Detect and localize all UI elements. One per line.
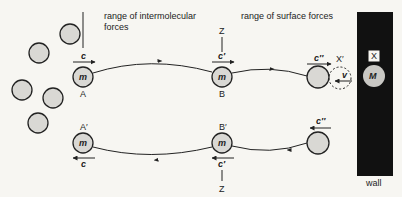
svg-text:M: M xyxy=(369,71,377,81)
velocity-c-return-label: c xyxy=(81,159,86,169)
label-X-prime: X′ xyxy=(336,54,344,64)
molecule-B-prime: m xyxy=(212,133,232,153)
upper-trajectory xyxy=(93,64,212,73)
intermolecular-range-label-2: forces xyxy=(104,22,129,32)
label-A: A xyxy=(80,89,86,99)
label-Z-top: Z xyxy=(219,26,225,36)
svg-text:m: m xyxy=(218,72,226,82)
velocity-v-label: v xyxy=(342,70,348,80)
lower-trajectory xyxy=(93,147,212,155)
molecule-A: m xyxy=(73,67,93,87)
intermolecular-range-label: range of intermolecular xyxy=(104,11,196,21)
wall-molecule-M: M xyxy=(363,65,385,87)
velocity-c-prime-return-label: c′ xyxy=(218,159,226,169)
surface-range-label: range of surface forces xyxy=(241,11,334,21)
label-Z-bottom: Z xyxy=(219,184,225,194)
adsorption-site-X-prime xyxy=(329,67,351,89)
wall xyxy=(357,12,393,176)
label-B: B xyxy=(219,89,225,99)
velocity-c-prime-label: c′ xyxy=(218,51,226,61)
molecular-collision-diagram: wall range of intermolecular forces rang… xyxy=(0,0,402,197)
gas-molecule-cluster xyxy=(12,24,80,133)
svg-text:m: m xyxy=(79,138,87,148)
label-X: X xyxy=(371,51,377,61)
label-A-prime: A′ xyxy=(80,122,88,132)
molecule-A-prime: m xyxy=(73,133,93,153)
velocity-c-double-prime-label: c′′ xyxy=(314,53,324,63)
lower-trajectory-2 xyxy=(232,143,307,150)
label-B-prime: B′ xyxy=(219,122,227,132)
svg-text:m: m xyxy=(218,138,226,148)
molecule-B: m xyxy=(212,67,232,87)
upper-trajectory-2 xyxy=(232,69,307,76)
svg-text:m: m xyxy=(79,72,87,82)
velocity-c-label: c xyxy=(81,51,86,61)
molecule-before-collision xyxy=(307,66,329,88)
wall-label: wall xyxy=(365,178,382,188)
velocity-c-double-prime-return-label: c′′ xyxy=(316,116,326,126)
molecule-after-collision xyxy=(307,132,329,154)
